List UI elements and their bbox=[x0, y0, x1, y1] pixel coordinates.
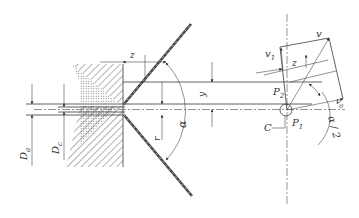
label-P2: P2 bbox=[272, 86, 285, 100]
point-c-circle bbox=[280, 104, 292, 116]
label-v1: v1 bbox=[265, 48, 275, 62]
nozzle-body bbox=[66, 64, 123, 167]
label-C: C bbox=[264, 122, 272, 133]
label-Da: Da bbox=[18, 148, 32, 161]
alpha-arc bbox=[166, 63, 186, 160]
label-v0: v0 bbox=[334, 95, 347, 109]
label-z-top: z bbox=[129, 50, 135, 60]
label-r: r bbox=[152, 136, 162, 141]
label-z-right: z bbox=[291, 58, 297, 68]
label-Dc: Dc bbox=[50, 142, 64, 155]
label-alpha: α bbox=[176, 120, 189, 128]
label-v: v bbox=[316, 28, 322, 39]
label-y: y bbox=[197, 91, 207, 98]
label-P1: P1 bbox=[291, 117, 303, 131]
liquid-sheet-upper bbox=[124, 24, 191, 104]
nozzle-diagram: z y r α Da Dc C bbox=[0, 0, 359, 218]
